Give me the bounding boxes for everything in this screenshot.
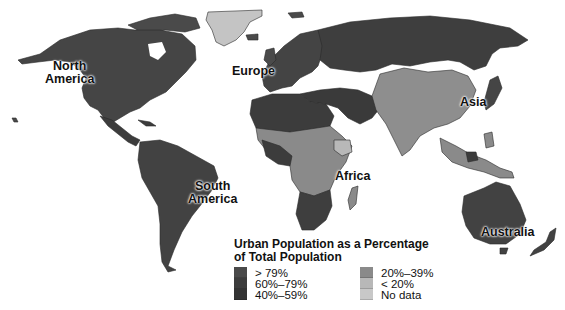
legend-swatch-40-59 — [234, 289, 247, 300]
legend-swatch-no-data — [360, 289, 373, 300]
label-south-america: South America — [188, 180, 237, 206]
label-north-america: North America — [45, 60, 94, 86]
legend-swatch-lt20 — [360, 278, 373, 289]
legend-label-40-59: 40%–59% — [255, 289, 307, 301]
label-australia-text: Australia — [481, 225, 535, 239]
label-africa-text: Africa — [335, 169, 370, 183]
legend-column-left: > 79% 60%–79% 40%–59% — [234, 267, 360, 300]
region-philippines — [484, 132, 494, 148]
region-southern-africa — [296, 190, 332, 230]
legend-item-40-59: 40%–59% — [234, 289, 360, 300]
legend-title-line2: of Total Population — [234, 251, 564, 264]
region-madagascar — [348, 186, 358, 210]
label-south-america-line2: America — [188, 193, 237, 206]
legend-item-20-39: 20%–39% — [360, 267, 486, 278]
region-asia — [372, 68, 476, 156]
label-africa: Africa — [335, 170, 370, 183]
region-japan — [484, 76, 502, 110]
label-asia-text: Asia — [460, 95, 486, 109]
label-north-america-line2: America — [45, 73, 94, 86]
region-iceland — [246, 34, 258, 40]
region-russia — [318, 16, 528, 72]
region-caribbean — [138, 120, 156, 126]
legend-item-lt20: < 20% — [360, 278, 486, 289]
region-central-africa — [256, 126, 352, 196]
region-hawaii — [12, 118, 18, 122]
legend-label-no-data: No data — [381, 289, 421, 301]
legend-swatch-gt79 — [234, 267, 247, 278]
legend-swatch-60-79 — [234, 278, 247, 289]
legend-swatch-20-39 — [360, 267, 373, 278]
region-greenland — [206, 10, 262, 46]
region-svalbard — [288, 12, 304, 18]
label-europe-text: Europe — [232, 64, 275, 78]
region-central-america — [100, 116, 140, 146]
label-asia: Asia — [460, 96, 486, 109]
legend-column-right: 20%–39% < 20% No data — [360, 267, 486, 300]
region-malaysia — [466, 152, 478, 162]
map-legend: Urban Population as a Percentage of Tota… — [234, 238, 564, 300]
legend-item-no-data: No data — [360, 289, 486, 300]
region-south-america — [138, 140, 218, 272]
legend-item-60-79: 60%–79% — [234, 278, 360, 289]
legend-item-gt79: > 79% — [234, 267, 360, 278]
label-europe: Europe — [232, 65, 275, 78]
